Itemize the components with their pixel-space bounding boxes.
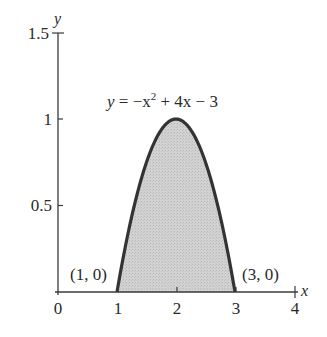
x-tick-label-0: 0 bbox=[54, 299, 63, 318]
x-tick-label-2: 2 bbox=[173, 299, 182, 318]
chart: 0 1 2 3 4 0.5 1 1.5 x y y = −x2 + 4x − 3… bbox=[0, 0, 327, 337]
point-label-left: (1, 0) bbox=[70, 265, 107, 284]
y-tick-label-0.5: 0.5 bbox=[31, 196, 52, 215]
x-axis-label: x bbox=[300, 282, 308, 299]
point-label-right: (3, 0) bbox=[242, 265, 279, 284]
y-tick-label-1.5: 1.5 bbox=[28, 24, 49, 43]
y-axis-label: y bbox=[52, 10, 62, 28]
equation-label: y = −x2 + 4x − 3 bbox=[105, 90, 218, 111]
x-tick-label-4: 4 bbox=[291, 299, 300, 318]
x-tick-label-3: 3 bbox=[232, 299, 241, 318]
x-tick-label-1: 1 bbox=[114, 299, 123, 318]
y-tick-label-1: 1 bbox=[44, 110, 53, 129]
